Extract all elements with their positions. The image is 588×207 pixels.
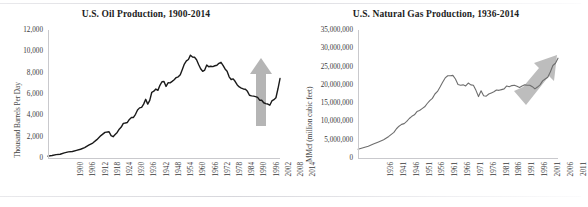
x-tick-label: 1951 (426, 162, 434, 188)
y-tick-label: 5,000,000 (301, 136, 353, 144)
x-tick-label: 1991 (528, 162, 536, 188)
chart-panel-gas: U.S. Natural Gas Production, 1936-2014 M… (292, 0, 581, 207)
y-tick-label: 25,000,000 (301, 63, 353, 71)
chart-title-oil: U.S. Oil Production, 1900-2014 (8, 9, 284, 19)
x-tick-label: 2006 (567, 162, 575, 188)
y-tick-label: 4,000 (9, 111, 43, 119)
x-tick-label: 1996 (273, 162, 281, 188)
x-tick-label: 1960 (199, 162, 207, 188)
gas-production-line (358, 58, 558, 149)
x-tick-label: 2001 (554, 162, 562, 188)
x-tick-label: 1971 (477, 162, 485, 188)
y-tick-label: 6,000 (9, 90, 43, 98)
y-tick-label: 30,000,000 (301, 44, 353, 52)
x-tick-label: 1956 (438, 162, 446, 188)
x-tick-label: 1986 (515, 162, 523, 188)
x-tick-label: 1978 (236, 162, 244, 188)
x-tick-label: 1948 (175, 162, 183, 188)
oil-production-line (48, 55, 280, 156)
series-svg-oil (48, 30, 280, 158)
x-tick-label: 1961 (451, 162, 459, 188)
x-tick-label: 1918 (114, 162, 122, 188)
growth-arrow-oil (250, 58, 272, 126)
x-tick-label: 1996 (541, 162, 549, 188)
x-axis-line-oil (48, 158, 280, 159)
x-tick-label: 1984 (248, 162, 256, 188)
x-tick-label: 1976 (490, 162, 498, 188)
y-tick-label: 35,000,000 (301, 26, 353, 34)
chart-title-gas: U.S. Natural Gas Production, 1936-2014 (302, 9, 570, 19)
x-tick-label: 1912 (102, 162, 110, 188)
y-tick-label: 12,000 (9, 26, 43, 34)
x-tick-label: 1930 (138, 162, 146, 188)
y-tick-label: 8,000 (9, 69, 43, 77)
y-tick-label: 20,000,000 (301, 81, 353, 89)
x-tick-label: 1936 (387, 162, 395, 188)
x-tick-label: 1900 (77, 162, 85, 188)
x-tick-label: 1972 (224, 162, 232, 188)
x-tick-label: 1954 (187, 162, 195, 188)
x-tick-label: 1966 (212, 162, 220, 188)
y-axis-line-oil (48, 30, 49, 158)
y-tick-label: 2,000 (9, 133, 43, 141)
x-tick-label: 1942 (163, 162, 171, 188)
x-tick-label: 1941 (400, 162, 408, 188)
x-tick-label: 1936 (150, 162, 158, 188)
y-tick-label: 0 (9, 154, 43, 162)
x-tick-label: 1946 (413, 162, 421, 188)
x-tick-label: 2011 (580, 162, 588, 188)
y-axis-line-gas (358, 30, 359, 158)
x-tick-label: 1966 (464, 162, 472, 188)
x-tick-label: 1906 (89, 162, 97, 188)
growth-arrow-gas (514, 55, 557, 105)
chart-panel-oil: U.S. Oil Production, 1900-2014 Thousand … (0, 0, 292, 207)
y-tick-label: 10,000,000 (301, 117, 353, 125)
x-tick-label: 1924 (126, 162, 134, 188)
series-svg-gas (358, 30, 558, 158)
plot-area-oil: 02,0004,0006,0008,00010,00012,000 190019… (48, 30, 280, 158)
plot-area-gas: 05,000,00010,000,00015,000,00020,000,000… (358, 30, 558, 158)
y-tick-label: 10,000 (9, 47, 43, 55)
x-tick-label: 1981 (503, 162, 511, 188)
y-tick-label: 0 (301, 154, 353, 162)
x-tick-label: 1990 (260, 162, 268, 188)
y-tick-label: 15,000,000 (301, 99, 353, 107)
x-axis-line-gas (358, 158, 558, 159)
